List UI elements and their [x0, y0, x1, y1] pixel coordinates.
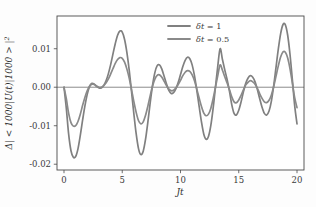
- y-axis-label-delta: Δ: [4, 143, 14, 151]
- chart-figure: 05101520 0.010.00-0.01-0.02 Jt Δ| < 1000…: [0, 0, 316, 207]
- y-axis-label-body: | < 1000|U(t)|1000 > |: [4, 40, 15, 143]
- x-tick-label: 10: [175, 175, 186, 185]
- x-tick-label: 0: [61, 175, 66, 185]
- y-axis-label-exponent: 2: [3, 36, 10, 41]
- legend-label-2: δt = 0.5: [196, 34, 229, 44]
- y-tick-label: 0.00: [32, 82, 51, 92]
- y-tick-label: -0.01: [29, 121, 51, 131]
- chart-canvas: 05101520 0.010.00-0.01-0.02 Jt Δ| < 1000…: [0, 0, 316, 207]
- y-tick-label: 0.01: [32, 44, 51, 54]
- y-axis-label: Δ| < 1000|U(t)|1000 > |2: [3, 36, 16, 150]
- y-tick-label: -0.02: [29, 159, 51, 169]
- svg-text:Δ| < 1000|U(t)|1000 > |2: Δ| < 1000|U(t)|1000 > |2: [3, 36, 16, 150]
- x-tick-label: 5: [120, 175, 125, 185]
- legend-label-1: δt = 1: [196, 21, 222, 31]
- x-tick-label: 15: [233, 175, 244, 185]
- x-tick-label: 20: [292, 175, 303, 185]
- x-axis-label: Jt: [174, 187, 184, 197]
